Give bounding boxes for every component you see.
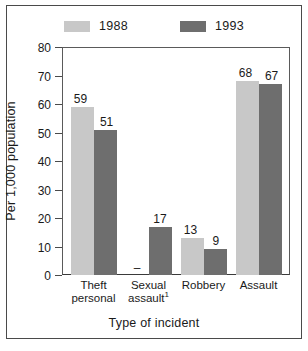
bar-groups: 59 51 – 17 13 9 [62,47,290,275]
y-tick-label-30: 30 [38,185,51,197]
bar-value-theft-personal-1988: 59 [74,93,87,105]
y-tick-70: 70 [55,76,62,77]
x-category-robbery: Robbery [176,279,231,305]
bar-robbery-1988: 13 [181,238,204,275]
legend-label-1993: 1993 [215,20,244,33]
legend-swatch-1993 [180,21,206,32]
y-tick-label-10: 10 [38,242,51,254]
bar-value-sexual-assault-1988: – [134,262,141,274]
y-tick-label-80: 80 [38,42,51,54]
y-tick-80: 80 [55,47,62,48]
x-category-robbery-line1: Robbery [182,279,225,291]
y-tick-20: 20 [55,218,62,219]
y-tick-40: 40 [55,161,62,162]
y-tick-10: 10 [55,247,62,248]
bar-group-assault: 68 67 [236,47,282,275]
y-tick-label-50: 50 [38,128,51,140]
bar-theft-personal-1988: 59 [71,107,94,275]
bar-group-sexual-assault: – 17 [126,47,172,275]
bar-sexual-assault-1988-none: – [126,273,149,275]
bar-value-assault-1988: 68 [239,67,252,79]
y-tick-label-70: 70 [38,71,51,83]
x-category-theft-personal: Theft personal [66,279,121,305]
bar-value-robbery-1993: 9 [212,235,219,247]
bar-theft-personal-1993: 51 [94,130,117,275]
x-category-sexual-assault-footnote: 1 [164,290,168,299]
x-axis-category-labels: Theft personal Sexual assault1 Robbery A… [62,279,290,305]
x-category-sexual-assault-line2: assault [128,292,164,304]
chart-legend: 1988 1993 [0,16,308,36]
bar-group-robbery: 13 9 [181,47,227,275]
bar-value-theft-personal-1993: 51 [100,116,113,128]
x-category-theft-personal-line1: Theft [80,279,106,291]
y-tick-0: 0 [55,275,62,276]
bar-robbery-1993: 9 [204,249,227,275]
y-axis-title: Per 1,000 population [4,47,18,275]
x-category-sexual-assault-line1: Sexual [131,279,166,291]
y-tick-label-40: 40 [38,156,51,168]
bar-value-assault-1993: 67 [265,70,278,82]
bar-group-theft-personal: 59 51 [71,47,117,275]
y-tick-50: 50 [55,133,62,134]
legend-item-1993: 1993 [180,20,244,33]
legend-swatch-1988 [64,21,90,32]
x-category-theft-personal-line2: personal [71,292,115,304]
chart-figure: 1988 1993 Per 1,000 population 80 70 60 … [0,0,308,351]
x-category-assault-line1: Assault [240,279,278,291]
bar-assault-1988: 68 [236,81,259,275]
y-tick-label-0: 0 [44,270,51,282]
legend-label-1988: 1988 [99,20,128,33]
x-category-sexual-assault: Sexual assault1 [121,279,176,305]
y-tick-label-20: 20 [38,213,51,225]
y-tick-60: 60 [55,104,62,105]
bar-value-sexual-assault-1993: 17 [153,213,166,225]
bar-value-robbery-1988: 13 [184,224,197,236]
bar-assault-1993: 67 [259,84,282,275]
legend-item-1988: 1988 [64,20,128,33]
x-category-assault: Assault [231,279,286,305]
bar-sexual-assault-1993: 17 [149,227,172,275]
y-tick-label-60: 60 [38,99,51,111]
plot-area-wrapper: 80 70 60 50 40 30 20 10 0 59 [62,47,290,275]
y-tick-30: 30 [55,190,62,191]
x-axis-title: Type of incident [6,316,302,330]
